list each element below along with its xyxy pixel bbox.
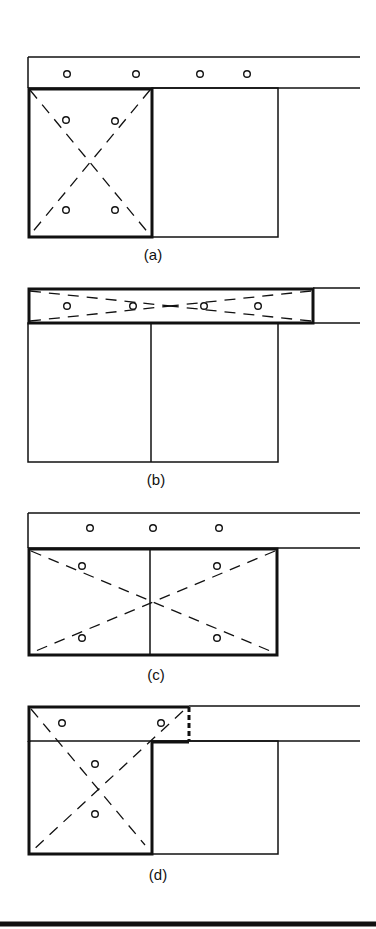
bold-panel (29, 741, 152, 854)
strip-bolts (64, 71, 251, 78)
adjacent-panel (152, 741, 278, 854)
panel-label-d: (d) (149, 866, 167, 883)
diagonal-yield-lines (30, 90, 150, 235)
panel-label-b: (b) (147, 471, 165, 488)
bold-panel (29, 549, 277, 655)
panel-bolts (59, 720, 165, 818)
figure-canvas: (a) (b) (c) (d) (0, 0, 376, 929)
panel-b (28, 288, 360, 462)
panel-c (28, 513, 360, 655)
diagonal-yield-lines (30, 291, 311, 321)
panel-label-a: (a) (144, 246, 162, 263)
bold-outline-top (29, 707, 189, 742)
panel-d (28, 706, 360, 854)
strip-bolts (64, 303, 262, 310)
panel-bolts (63, 117, 119, 214)
strip-bolts (87, 525, 223, 532)
diagonal-yield-lines (31, 551, 275, 653)
panel-a (28, 57, 360, 237)
panel-label-c: (c) (147, 666, 165, 683)
adjacent-panel (152, 88, 278, 237)
diagonal-yield-lines (31, 709, 183, 852)
lower-panels (28, 323, 278, 462)
